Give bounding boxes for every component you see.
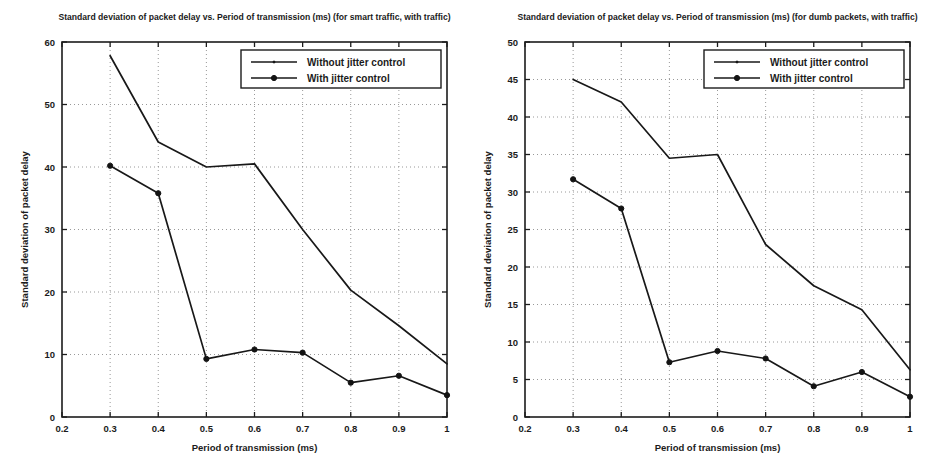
data-point-marker — [811, 384, 816, 389]
y-tick-label: 20 — [507, 262, 518, 273]
y-tick-label: 15 — [507, 299, 518, 310]
y-tick-label: 0 — [50, 412, 55, 423]
y-tick-label: 20 — [44, 287, 55, 298]
chart-right: Standard deviation of packet delay vs. P… — [463, 0, 926, 473]
x-tick-label: 0.6 — [711, 423, 724, 434]
x-tick-label: 0.4 — [615, 423, 629, 434]
y-tick-label: 50 — [507, 37, 518, 48]
y-tick-label: 10 — [507, 337, 518, 348]
x-tick-label: 0.7 — [759, 423, 772, 434]
x-axis-title: Period of transmission (ms) — [655, 442, 781, 453]
data-point-marker — [763, 356, 768, 361]
legend-label-1: Without jitter control — [307, 57, 405, 68]
y-axis-title: Standard deviation of packet delay — [19, 150, 30, 308]
data-point-marker — [907, 394, 912, 399]
x-tick-label: 0.2 — [518, 423, 531, 434]
y-tick-label: 0 — [513, 412, 518, 423]
x-tick-label: 1 — [444, 423, 450, 434]
y-tick-label: 50 — [44, 99, 55, 110]
legend-label-2: With jitter control — [307, 73, 390, 84]
y-tick-label: 25 — [507, 224, 518, 235]
figure-container: Standard deviation of packet delay vs. P… — [0, 0, 926, 473]
data-point-marker — [252, 347, 257, 352]
y-tick-label: 35 — [507, 149, 518, 160]
chart-left: Standard deviation of packet delay vs. P… — [0, 0, 463, 473]
x-tick-label: 0.5 — [200, 423, 214, 434]
chart-panel-right: Standard deviation of packet delay vs. P… — [463, 0, 926, 473]
y-tick-label: 30 — [44, 224, 55, 235]
data-point-marker — [396, 373, 401, 378]
y-tick-label: 5 — [513, 374, 519, 385]
x-tick-label: 0.5 — [663, 423, 677, 434]
x-axis-title: Period of transmission (ms) — [192, 442, 318, 453]
data-point-marker — [859, 369, 864, 374]
x-tick-label: 0.2 — [55, 423, 68, 434]
x-tick-label: 0.7 — [296, 423, 309, 434]
chart-title: Standard deviation of packet delay vs. P… — [517, 12, 917, 22]
chart-panel-left: Standard deviation of packet delay vs. P… — [0, 0, 463, 473]
data-point-marker — [715, 348, 720, 353]
data-point-marker — [204, 356, 209, 361]
data-point-marker — [571, 177, 576, 182]
y-tick-label: 10 — [44, 349, 55, 360]
legend-marker-1 — [273, 61, 275, 63]
data-point-marker — [619, 206, 624, 211]
legend-marker-1 — [736, 61, 738, 63]
y-tick-label: 45 — [507, 74, 518, 85]
x-tick-label: 0.3 — [567, 423, 580, 434]
chart-title: Standard deviation of packet delay vs. P… — [58, 12, 450, 22]
y-tick-label: 40 — [44, 162, 55, 173]
data-point-marker — [348, 380, 353, 385]
legend-marker-2 — [271, 75, 276, 80]
x-tick-label: 0.3 — [104, 423, 117, 434]
x-tick-label: 0.6 — [248, 423, 261, 434]
y-tick-label: 30 — [507, 187, 518, 198]
y-tick-label: 40 — [507, 112, 518, 123]
data-point-marker — [300, 350, 305, 355]
x-tick-label: 0.8 — [344, 423, 357, 434]
legend-marker-2 — [734, 75, 739, 80]
data-point-marker — [156, 191, 161, 196]
x-tick-label: 1 — [907, 423, 913, 434]
x-tick-label: 0.9 — [392, 423, 405, 434]
x-tick-label: 0.8 — [807, 423, 820, 434]
data-point-marker — [667, 360, 672, 365]
x-tick-label: 0.9 — [855, 423, 868, 434]
legend-label-1: Without jitter control — [770, 57, 868, 68]
y-axis-title: Standard deviation of packet delay — [482, 150, 493, 308]
legend-label-2: With jitter control — [770, 73, 853, 84]
y-tick-label: 60 — [44, 37, 55, 48]
x-tick-label: 0.4 — [152, 423, 166, 434]
data-point-marker — [108, 163, 113, 168]
data-point-marker — [444, 393, 449, 398]
